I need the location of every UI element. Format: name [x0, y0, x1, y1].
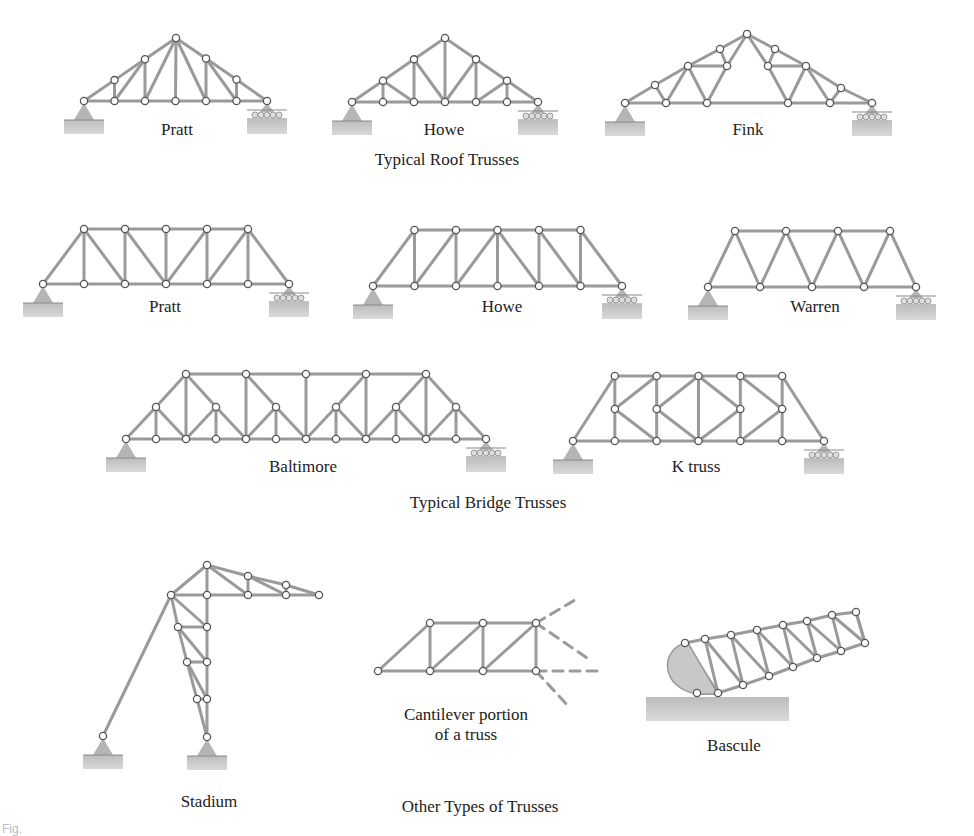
bridge-howe-roller-support-icon — [602, 288, 642, 319]
bridge-ktruss-pin-support-icon — [553, 443, 593, 474]
bridge-section-title: Typical Bridge Trusses — [410, 493, 567, 513]
roof-fink-pin-support-icon — [605, 105, 645, 136]
bascule-label: Bascule — [707, 736, 761, 756]
bridge-howe-label: Howe — [482, 297, 523, 317]
cantilever-dashed-continuation — [536, 600, 600, 708]
stadium-right-pin-support-icon — [187, 739, 227, 770]
roof-section-title: Typical Roof Trusses — [375, 150, 519, 170]
roof-fink-label: Fink — [732, 120, 763, 140]
roof-howe-truss — [352, 38, 538, 102]
roof-pratt-pin-support-icon — [64, 103, 104, 134]
cantilever-truss — [378, 623, 536, 671]
bridge-warren-truss — [708, 231, 916, 287]
bridge-warren-label: Warren — [790, 297, 840, 317]
bridge-baltimore-roller-support-icon — [466, 441, 506, 472]
bridge-warren-roller-support-icon — [896, 289, 936, 320]
roof-fink-roller-support-icon — [852, 105, 892, 136]
stadium-left-pin-support-icon — [83, 738, 123, 769]
bridge-pratt-pin-support-icon — [23, 286, 63, 317]
cantilever-label-line1: Cantilever portion — [404, 705, 528, 725]
figure-caption-fragment: Fig. — [2, 822, 22, 836]
bridge-pratt-label: Pratt — [149, 297, 181, 317]
stadium-label: Stadium — [181, 792, 238, 812]
bascule-ground — [646, 697, 789, 721]
bridge-pratt-truss — [43, 229, 289, 284]
bridge-baltimore-truss — [126, 374, 486, 439]
bridge-howe-pin-support-icon — [353, 288, 393, 319]
roof-pratt-label: Pratt — [161, 120, 193, 140]
bridge-pratt-roller-support-icon — [269, 286, 309, 317]
stadium-truss-joints — [99, 561, 322, 740]
roof-howe-pin-support-icon — [332, 104, 372, 135]
bridge-howe-truss — [373, 230, 622, 286]
roof-pratt-truss — [84, 38, 267, 101]
bridge-baltimore-pin-support-icon — [106, 441, 146, 472]
cantilever-label-line2: of a truss — [435, 725, 497, 745]
roof-pratt-roller-support-icon — [247, 103, 287, 134]
bridge-ktruss-label: K truss — [672, 457, 721, 477]
roof-fink-truss — [625, 34, 872, 103]
roof-howe-label: Howe — [424, 120, 465, 140]
roof-howe-roller-support-icon — [518, 104, 558, 135]
bridge-ktruss-roller-support-icon — [804, 443, 844, 474]
other-section-title: Other Types of Trusses — [402, 797, 559, 817]
bascule-counterweight — [668, 643, 718, 694]
bridge-baltimore-label: Baltimore — [269, 457, 337, 477]
bridge-warren-pin-support-icon — [688, 289, 728, 320]
